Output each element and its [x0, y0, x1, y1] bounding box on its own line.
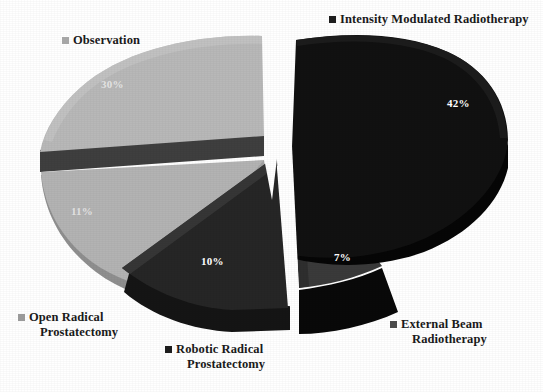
legend-swatch-icon-open-radical	[18, 314, 25, 321]
legend-swatch-icon-imrt	[329, 16, 336, 23]
legend-item-observation[interactable]: Observation	[62, 33, 140, 48]
legend-label-imrt-line1: Intensity Modulated Radiotherapy	[340, 12, 529, 26]
pie-chart: 42% 7% 10% 11% 30% Intensity Modulated R…	[0, 0, 543, 392]
legend-label-external-beam-line1: External Beam	[401, 317, 483, 331]
slice-value-observation: 30%	[101, 78, 124, 90]
legend-label-robotic-radical-line2: Prostatectomy	[176, 357, 265, 372]
legend-label-observation-line1: Observation	[73, 33, 140, 47]
slice-value-imrt: 42%	[447, 97, 470, 109]
legend-label-external-beam-line2: Radiotherapy	[401, 332, 487, 347]
legend-label-open-radical-line2: Prostatectomy	[29, 325, 118, 340]
legend-item-robotic-radical[interactable]: Robotic Radical Prostatectomy	[165, 342, 265, 373]
slice-imrt	[288, 35, 508, 265]
legend-label-robotic-radical-line1: Robotic Radical	[176, 342, 263, 356]
legend-item-external-beam[interactable]: External Beam Radiotherapy	[390, 317, 487, 348]
legend-label-open-radical-line1: Open Radical	[29, 310, 103, 324]
slice-value-open-radical: 11%	[71, 205, 93, 217]
legend-item-imrt[interactable]: Intensity Modulated Radiotherapy	[329, 12, 529, 27]
slice-value-robotic-radical: 10%	[201, 255, 224, 267]
slice-observation	[40, 36, 264, 172]
legend-swatch-icon-observation	[62, 37, 69, 44]
legend-swatch-icon-external-beam	[390, 321, 397, 328]
slice-value-external-beam: 7%	[334, 251, 351, 263]
legend-swatch-icon-robotic-radical	[165, 346, 172, 353]
legend-item-open-radical[interactable]: Open Radical Prostatectomy	[18, 310, 118, 341]
